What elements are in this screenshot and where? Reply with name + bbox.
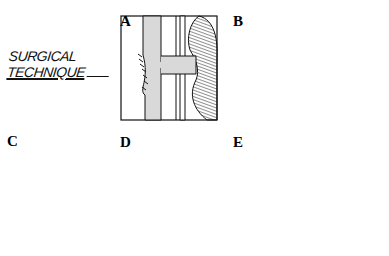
surgical-diagram bbox=[0, 0, 389, 256]
panel-a bbox=[121, 16, 217, 120]
panel-label-c: C bbox=[7, 134, 18, 149]
panel-label-b: B bbox=[233, 14, 243, 29]
panel-label-a: A bbox=[120, 14, 131, 29]
panel-label-d: D bbox=[120, 135, 131, 150]
panel-label-e: E bbox=[233, 135, 243, 150]
